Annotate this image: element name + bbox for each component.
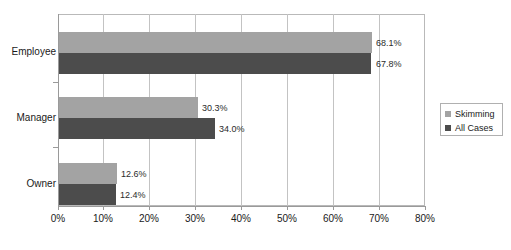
x-tick-20 <box>149 206 150 210</box>
legend: Skimming All Cases <box>440 103 503 136</box>
x-tick-40 <box>241 206 242 210</box>
x-tick-60 <box>333 206 334 210</box>
bar-manager-allcases <box>59 118 215 139</box>
x-tick-30 <box>195 206 196 210</box>
category-label-owner: Owner <box>0 178 56 189</box>
x-axis-line <box>58 206 426 207</box>
x-tick-0 <box>58 206 59 210</box>
x-tick-50 <box>287 206 288 210</box>
bar-employee-allcases <box>59 53 371 74</box>
x-axis-label-70: 70% <box>369 213 389 224</box>
bar-label-owner-skimming: 12.6% <box>121 169 147 179</box>
bar-chart: 68.1% 67.8% Employee 30.3% 34.0% Manager… <box>0 0 511 250</box>
x-axis-label-30: 30% <box>185 213 205 224</box>
x-axis-label-0: 0% <box>51 213 65 224</box>
x-axis-label-20: 20% <box>139 213 159 224</box>
legend-item-allcases: All Cases <box>445 121 499 134</box>
x-tick-70 <box>379 206 380 210</box>
legend-label-allcases: All Cases <box>455 123 493 133</box>
x-axis-label-40: 40% <box>231 213 251 224</box>
x-axis-label-80: 80% <box>415 213 435 224</box>
x-tick-10 <box>103 206 104 210</box>
bar-employee-skimming <box>59 32 372 53</box>
legend-item-skimming: Skimming <box>445 107 499 120</box>
legend-swatch-icon-allcases <box>445 125 451 131</box>
bar-label-manager-skimming: 30.3% <box>202 103 228 113</box>
x-tick-80 <box>425 206 426 210</box>
x-axis-label-10: 10% <box>93 213 113 224</box>
bar-label-manager-allcases: 34.0% <box>219 124 245 134</box>
category-label-employee: Employee <box>0 46 56 57</box>
category-tick-1 <box>53 82 58 83</box>
legend-swatch-icon-skimming <box>445 111 451 117</box>
x-axis-label-60: 60% <box>323 213 343 224</box>
bar-label-owner-allcases: 12.4% <box>120 190 146 200</box>
category-label-manager: Manager <box>0 112 56 123</box>
bar-label-employee-skimming: 68.1% <box>376 38 402 48</box>
bar-label-employee-allcases: 67.8% <box>376 59 402 69</box>
legend-label-skimming: Skimming <box>455 109 495 119</box>
bar-owner-allcases <box>59 184 116 205</box>
bar-manager-skimming <box>59 97 198 118</box>
bar-owner-skimming <box>59 163 117 184</box>
category-tick-2 <box>53 147 58 148</box>
x-axis-label-50: 50% <box>277 213 297 224</box>
